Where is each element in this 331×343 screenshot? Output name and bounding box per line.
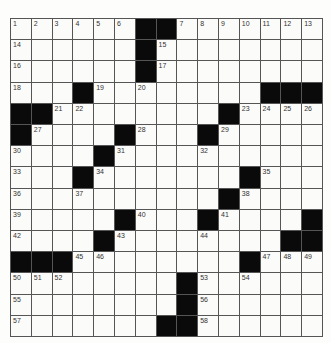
grid-cell[interactable]: 32 <box>198 146 218 166</box>
grid-cell[interactable]: 39 <box>11 210 31 230</box>
grid-cell[interactable]: 53 <box>198 273 218 293</box>
grid-cell[interactable]: 56 <box>198 295 218 315</box>
grid-cell[interactable] <box>136 252 156 272</box>
grid-cell[interactable] <box>177 167 197 187</box>
grid-cell[interactable]: 54 <box>240 273 260 293</box>
grid-cell[interactable] <box>53 83 73 103</box>
grid-cell[interactable] <box>302 273 322 293</box>
grid-cell[interactable] <box>136 167 156 187</box>
grid-cell[interactable] <box>32 40 52 60</box>
grid-cell[interactable]: 26 <box>302 104 322 124</box>
grid-cell[interactable] <box>136 189 156 209</box>
grid-cell[interactable]: 29 <box>219 125 239 145</box>
grid-cell[interactable] <box>261 146 281 166</box>
grid-cell[interactable] <box>302 40 322 60</box>
grid-cell[interactable] <box>281 61 301 81</box>
grid-cell[interactable] <box>136 104 156 124</box>
grid-cell[interactable]: 31 <box>115 146 135 166</box>
grid-cell[interactable] <box>219 231 239 251</box>
grid-cell[interactable] <box>219 83 239 103</box>
grid-cell[interactable] <box>136 273 156 293</box>
grid-cell[interactable]: 20 <box>136 83 156 103</box>
grid-cell[interactable] <box>177 252 197 272</box>
grid-cell[interactable] <box>115 104 135 124</box>
grid-cell[interactable]: 23 <box>240 104 260 124</box>
grid-cell[interactable] <box>94 295 114 315</box>
grid-cell[interactable] <box>53 167 73 187</box>
grid-cell[interactable] <box>73 61 93 81</box>
grid-cell[interactable] <box>53 316 73 336</box>
grid-cell[interactable]: 10 <box>240 19 260 39</box>
grid-cell[interactable] <box>136 231 156 251</box>
grid-cell[interactable] <box>198 83 218 103</box>
grid-cell[interactable] <box>157 295 177 315</box>
grid-cell[interactable] <box>157 104 177 124</box>
grid-cell[interactable] <box>94 189 114 209</box>
grid-cell[interactable] <box>302 316 322 336</box>
grid-cell[interactable]: 11 <box>261 19 281 39</box>
grid-cell[interactable] <box>53 189 73 209</box>
grid-cell[interactable] <box>281 295 301 315</box>
grid-cell[interactable] <box>94 210 114 230</box>
grid-cell[interactable]: 43 <box>115 231 135 251</box>
grid-cell[interactable] <box>73 295 93 315</box>
grid-cell[interactable] <box>219 146 239 166</box>
grid-cell[interactable] <box>177 125 197 145</box>
grid-cell[interactable]: 45 <box>73 252 93 272</box>
grid-cell[interactable] <box>281 40 301 60</box>
grid-cell[interactable] <box>302 61 322 81</box>
grid-cell[interactable] <box>32 61 52 81</box>
grid-cell[interactable] <box>219 316 239 336</box>
grid-cell[interactable]: 41 <box>219 210 239 230</box>
grid-cell[interactable] <box>53 210 73 230</box>
grid-cell[interactable] <box>261 316 281 336</box>
grid-cell[interactable]: 46 <box>94 252 114 272</box>
grid-cell[interactable] <box>261 273 281 293</box>
grid-cell[interactable] <box>115 167 135 187</box>
grid-cell[interactable]: 34 <box>94 167 114 187</box>
grid-cell[interactable] <box>53 40 73 60</box>
grid-cell[interactable] <box>32 83 52 103</box>
grid-cell[interactable] <box>261 189 281 209</box>
grid-cell[interactable]: 22 <box>73 104 93 124</box>
grid-cell[interactable] <box>157 210 177 230</box>
grid-cell[interactable]: 14 <box>11 40 31 60</box>
grid-cell[interactable] <box>281 189 301 209</box>
grid-cell[interactable] <box>281 210 301 230</box>
grid-cell[interactable] <box>94 40 114 60</box>
grid-cell[interactable] <box>177 146 197 166</box>
grid-cell[interactable] <box>261 61 281 81</box>
grid-cell[interactable] <box>32 146 52 166</box>
grid-cell[interactable] <box>219 61 239 81</box>
grid-cell[interactable] <box>198 189 218 209</box>
grid-cell[interactable]: 17 <box>157 61 177 81</box>
grid-cell[interactable]: 19 <box>94 83 114 103</box>
grid-cell[interactable] <box>281 146 301 166</box>
grid-cell[interactable] <box>302 146 322 166</box>
grid-cell[interactable]: 30 <box>11 146 31 166</box>
grid-cell[interactable] <box>94 125 114 145</box>
grid-cell[interactable] <box>157 273 177 293</box>
grid-cell[interactable] <box>198 167 218 187</box>
grid-cell[interactable] <box>177 61 197 81</box>
grid-cell[interactable] <box>136 146 156 166</box>
grid-cell[interactable] <box>198 40 218 60</box>
grid-cell[interactable] <box>261 210 281 230</box>
grid-cell[interactable] <box>53 146 73 166</box>
grid-cell[interactable]: 8 <box>198 19 218 39</box>
grid-cell[interactable] <box>240 146 260 166</box>
grid-cell[interactable] <box>198 252 218 272</box>
grid-cell[interactable]: 9 <box>219 19 239 39</box>
grid-cell[interactable] <box>240 40 260 60</box>
grid-cell[interactable] <box>157 125 177 145</box>
grid-cell[interactable]: 52 <box>53 273 73 293</box>
grid-cell[interactable] <box>94 316 114 336</box>
grid-cell[interactable]: 21 <box>53 104 73 124</box>
grid-cell[interactable] <box>115 189 135 209</box>
grid-cell[interactable] <box>94 273 114 293</box>
grid-cell[interactable] <box>177 104 197 124</box>
grid-cell[interactable]: 36 <box>11 189 31 209</box>
grid-cell[interactable] <box>219 273 239 293</box>
grid-cell[interactable] <box>73 273 93 293</box>
grid-cell[interactable] <box>240 295 260 315</box>
